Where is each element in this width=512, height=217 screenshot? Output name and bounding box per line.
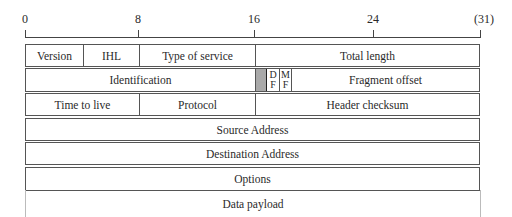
field-version: Version xyxy=(26,45,83,66)
tick-mark xyxy=(254,30,255,38)
header-row-source: Source Address xyxy=(25,118,480,141)
tick-mark xyxy=(373,30,374,38)
mf-bottom: F xyxy=(283,80,289,90)
tick-mark xyxy=(25,30,26,38)
header-row-1: Version IHL Type of service Total length xyxy=(25,44,480,67)
field-header-checksum: Header checksum xyxy=(255,94,479,115)
field-time-to-live: Time to live xyxy=(26,94,139,115)
tick-mark xyxy=(480,30,481,38)
tick-label-8: 8 xyxy=(135,12,141,27)
field-fragment-offset: Fragment offset xyxy=(291,69,479,91)
tick-label-31: (31) xyxy=(474,12,494,27)
field-destination-address: Destination Address xyxy=(26,143,479,164)
ruler-line xyxy=(25,37,481,38)
tick-label-16: 16 xyxy=(248,12,260,27)
field-options: Options xyxy=(26,168,479,190)
data-payload-label: Data payload xyxy=(223,198,284,210)
field-total-length: Total length xyxy=(255,45,479,66)
header-row-3: Time to live Protocol Header checksum xyxy=(25,93,480,116)
df-bottom: F xyxy=(270,80,276,90)
header-row-2: Identification D F M F Fragment offset xyxy=(25,68,480,92)
header-row-destination: Destination Address xyxy=(25,142,480,165)
field-protocol: Protocol xyxy=(139,94,255,115)
field-df-flag: D F xyxy=(267,69,279,91)
tick-label-0: 0 xyxy=(22,12,28,27)
field-mf-flag: M F xyxy=(279,69,291,91)
field-identification: Identification xyxy=(26,69,255,91)
header-row-options: Options xyxy=(25,167,480,191)
field-reserved-flag xyxy=(255,69,267,91)
field-source-address: Source Address xyxy=(26,119,479,140)
tick-label-24: 24 xyxy=(367,12,379,27)
field-ihl: IHL xyxy=(83,45,139,66)
data-payload: Data payload xyxy=(25,190,481,217)
field-type-of-service: Type of service xyxy=(139,45,255,66)
tick-mark xyxy=(138,30,139,38)
